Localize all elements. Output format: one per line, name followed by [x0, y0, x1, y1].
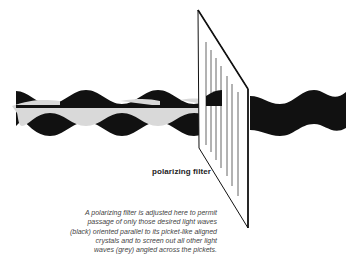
black-light-wave-right: [250, 90, 346, 136]
caption-line: crystals and to screen out all other lig…: [17, 236, 217, 245]
caption-line: waves (grey) angled across the pickets.: [17, 245, 217, 254]
filter-label: polarizing filter: [152, 167, 211, 176]
caption-line: passage of only those desired light wave…: [17, 217, 217, 226]
wave-divider: [16, 105, 222, 108]
caption: A polarizing filter is adjusted here to …: [17, 208, 217, 254]
caption-line: (black) oriented parallel to its picket-…: [17, 227, 217, 236]
caption-line: A polarizing filter is adjusted here to …: [17, 208, 217, 217]
filter-plane: [198, 10, 248, 228]
